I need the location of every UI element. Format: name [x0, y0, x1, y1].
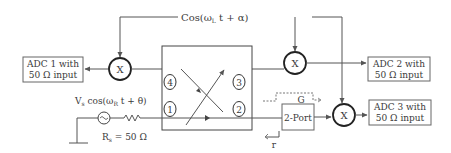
svg-text:2-Port: 2-Port: [284, 113, 312, 123]
svg-text:X: X: [116, 64, 124, 75]
coupler-port-4: 4: [164, 75, 176, 90]
gain-arrow: [263, 93, 320, 101]
coupler-port-3: 3: [233, 75, 245, 90]
mixer-1: X: [109, 58, 131, 80]
signal-source: Vs cos(ωR t + θ) Rs = 50 Ω: [69, 96, 147, 143]
svg-text:4: 4: [167, 78, 173, 88]
svg-text:Vs cos(ωR t + θ): Vs cos(ωR t + θ): [74, 96, 147, 107]
adc2-block: ADC 2 with 50 Ω input: [368, 57, 430, 81]
svg-text:3: 3: [236, 78, 242, 88]
svg-text:X: X: [340, 110, 348, 121]
svg-text:1: 1: [167, 105, 173, 115]
gain-label: G: [297, 95, 304, 105]
adc3-block: ADC 3 with 50 Ω input: [369, 100, 431, 125]
coupler-port-2: 2: [233, 102, 245, 117]
measurement-setup-diagram: Cos(ωL t + α) ADC 1 with 50 Ω input X 4 …: [0, 0, 451, 153]
svg-text:50 Ω input: 50 Ω input: [375, 70, 424, 80]
svg-text:Rs = 50 Ω: Rs = 50 Ω: [102, 132, 147, 143]
resistor-icon: [110, 115, 145, 121]
reflection-label: r: [272, 140, 277, 150]
svg-text:50 Ω input: 50 Ω input: [29, 70, 78, 80]
adc1-block: ADC 1 with 50 Ω input: [23, 57, 83, 82]
svg-text:50 Ω input: 50 Ω input: [376, 113, 425, 123]
coupler-port-1: 1: [164, 102, 176, 117]
mixer-2: X: [284, 52, 306, 74]
mixer-3: X: [333, 104, 355, 126]
lo-signal-label: Cos(ωL t + α): [181, 12, 249, 24]
two-port-block: 2-Port: [282, 104, 314, 130]
svg-text:X: X: [291, 58, 299, 69]
svg-text:ADC 3 with: ADC 3 with: [373, 102, 426, 112]
svg-text:ADC 1 with: ADC 1 with: [26, 59, 79, 69]
svg-text:2: 2: [236, 105, 242, 115]
svg-text:ADC 2 with: ADC 2 with: [372, 59, 425, 69]
